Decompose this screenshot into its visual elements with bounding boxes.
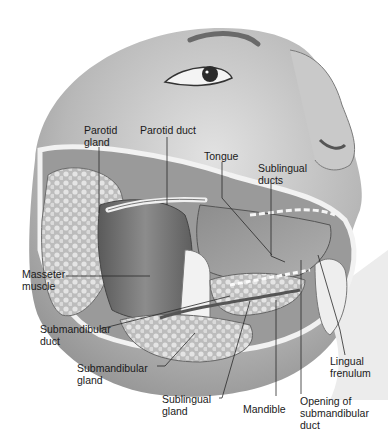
anatomy-figure: Parotid gland Parotid duct Tongue Sublin… [0,0,388,443]
label-tongue: Tongue [204,150,238,162]
label-parotid-duct: Parotid duct [140,124,196,136]
label-submandibular-duct: Submandibular duct [40,323,111,347]
label-masseter-muscle: Masseter muscle [22,268,65,292]
masseter-muscle-shape [98,200,192,321]
label-lingual-frenulum: Lingual frenulum [330,355,371,379]
label-opening-submandibular-duct: Opening of submandibular duct [300,395,369,431]
label-parotid-gland: Parotid gland [84,124,117,148]
label-sublingual-gland: Sublingual gland [162,393,211,417]
label-submandibular-gland: Submandibular gland [77,362,148,386]
label-mandible: Mandible [243,403,286,415]
label-sublingual-ducts: Sublingual ducts [258,162,307,186]
